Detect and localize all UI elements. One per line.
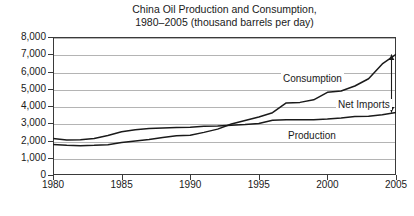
- y-axis-tick-label: 5,000: [2, 83, 46, 94]
- x-axis-tick-mark: [396, 175, 397, 180]
- x-axis-tick-mark: [190, 175, 191, 180]
- y-axis-tick-label: 3,000: [2, 117, 46, 128]
- chart-title: China Oil Production and Consumption, 19…: [53, 3, 396, 28]
- chart-container: China Oil Production and Consumption, 19…: [0, 0, 414, 216]
- y-axis-tick-label: 8,000: [2, 31, 46, 42]
- x-axis-tick-label: 2005: [373, 179, 414, 190]
- y-axis-tick-label: 6,000: [2, 66, 46, 77]
- x-axis-tick-label: 1985: [99, 179, 145, 190]
- x-axis-tick-mark: [259, 175, 260, 180]
- x-axis-tick-mark: [327, 175, 328, 180]
- y-axis-tick-label: 7,000: [2, 48, 46, 59]
- net-imports-label: Net Imports: [336, 99, 392, 110]
- chart-title-line-1: China Oil Production and Consumption,: [53, 3, 396, 16]
- chart-title-line-2: 1980–2005 (thousand barrels per day): [53, 16, 396, 29]
- consumption-label: Consumption: [281, 73, 344, 84]
- x-axis-tick-label: 1990: [167, 179, 213, 190]
- production-label: Production: [286, 130, 338, 141]
- y-axis-tick-label: 4,000: [2, 100, 46, 111]
- y-axis-tick-label: 2,000: [2, 135, 46, 146]
- x-axis-tick-label: 1980: [30, 179, 76, 190]
- x-axis-tick-label: 2000: [304, 179, 350, 190]
- x-axis-tick-mark: [53, 175, 54, 180]
- x-axis-tick-mark: [122, 175, 123, 180]
- x-axis-tick-label: 1995: [236, 179, 282, 190]
- net-imports-arrowhead-top: [389, 54, 395, 60]
- y-axis-tick-label: 1,000: [2, 152, 46, 163]
